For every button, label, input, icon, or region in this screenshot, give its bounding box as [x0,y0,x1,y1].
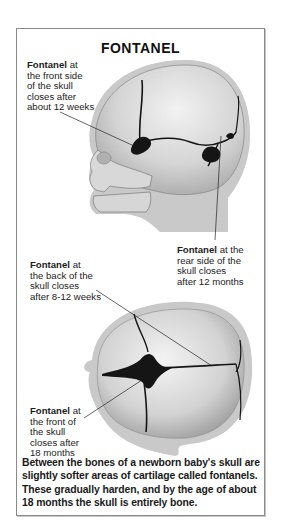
label-bold: Fontanel [30,259,70,270]
side-view-skull [89,60,250,232]
top-view-skull [84,302,252,456]
diagram-caption: Between the bones of a newborn baby's sk… [22,456,264,509]
label-bold: Fontanel [177,244,217,255]
label-fontanel-front-side: Fontanel at the front side of the skull … [27,60,94,113]
label-bold: Fontanel [30,405,70,416]
label-fontanel-rear-side: Fontanel at the rear side of the skull c… [177,245,244,287]
label-bold: Fontanel [27,59,67,70]
label-fontanel-front: Fontanel at the front of the skull close… [30,406,81,459]
label-fontanel-back: Fontanel at the back of the skull closes… [30,260,101,302]
